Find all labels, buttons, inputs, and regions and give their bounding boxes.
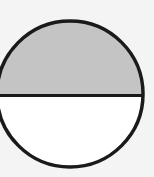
half-shaded-circle-diagram	[0, 0, 154, 177]
shaded-top-half	[0, 0, 154, 95]
